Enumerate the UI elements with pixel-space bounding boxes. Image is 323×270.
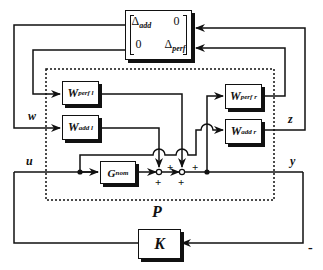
zero-entry-21: 0: [136, 35, 142, 58]
w-perf-l-block: Wperf l: [62, 81, 99, 105]
controller-k-block: K: [138, 229, 181, 259]
w-add-r-block: Wadd r: [225, 119, 262, 144]
sign-sum2-right: +: [192, 162, 198, 173]
summer-2: [179, 169, 184, 174]
junction-u: [77, 169, 82, 174]
uncertainty-block: Δadd 0 0 Δperf: [125, 10, 192, 60]
w-perf-r-block: Wperf r: [225, 84, 262, 109]
sign-sum1-bottom: +: [155, 177, 161, 188]
faint-caption-strip: [70, 262, 310, 268]
summer-1: [156, 169, 161, 174]
g-nom-block: Gnom: [100, 161, 136, 184]
signal-y-label: y: [290, 155, 295, 167]
junction-y: [204, 169, 209, 174]
delta-add-entry: Δadd: [132, 12, 152, 35]
w-add-l-block: Wadd l: [62, 115, 99, 140]
plant-p-label: P: [152, 204, 162, 220]
sign-feedback-minus: -: [308, 241, 313, 255]
sign-sum1-right: +: [167, 162, 173, 173]
signal-z-label: z: [288, 113, 293, 125]
zero-entry-12: 0: [174, 12, 180, 35]
signal-u-label: u: [26, 155, 33, 167]
sign-sum2-bottom: +: [178, 177, 184, 188]
signal-w-label: w: [28, 110, 36, 122]
